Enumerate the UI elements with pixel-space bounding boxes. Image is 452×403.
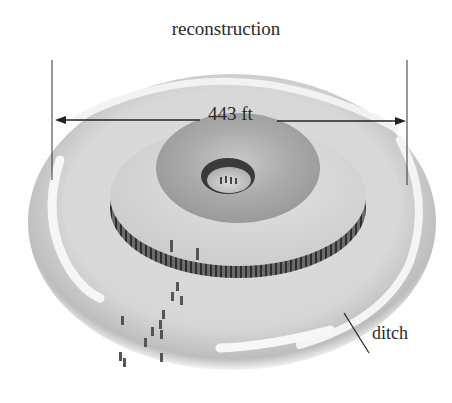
- henge-diagram: reconstruction 443 ft ditch: [0, 0, 452, 403]
- central-pit: [207, 167, 251, 193]
- diameter-label: 443 ft: [208, 103, 253, 125]
- arrowhead-right-icon: [395, 117, 406, 125]
- ditch-label: ditch: [372, 323, 408, 344]
- figure-title: reconstruction: [0, 18, 452, 40]
- arrowhead-left-icon: [55, 116, 66, 124]
